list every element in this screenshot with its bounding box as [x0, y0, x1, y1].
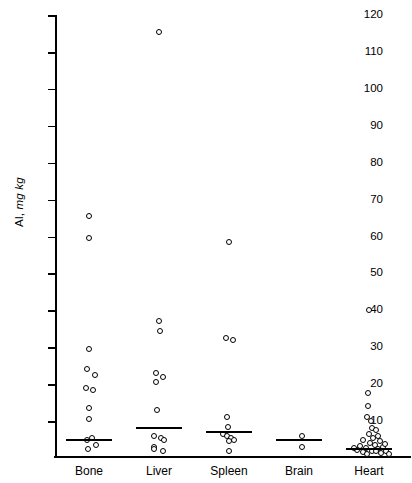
data-point — [226, 448, 232, 454]
y-tick-40 — [48, 310, 55, 312]
y-tick-label-80: 80 — [353, 157, 383, 169]
median-line-brain — [276, 439, 322, 441]
data-point — [85, 446, 91, 452]
data-point — [223, 335, 229, 341]
data-point — [157, 328, 163, 334]
data-point — [86, 405, 92, 411]
data-point — [86, 235, 92, 241]
median-line-bone — [66, 439, 112, 441]
category-label-heart: Heart — [324, 465, 412, 477]
y-tick-60 — [48, 237, 55, 239]
x-axis-line — [54, 456, 411, 458]
y-tick-120 — [48, 15, 55, 17]
y-tick-10 — [48, 421, 55, 423]
data-point — [90, 387, 96, 393]
data-point — [86, 346, 92, 352]
median-line-spleen — [206, 431, 252, 433]
y-tick-20 — [48, 384, 55, 386]
data-point — [84, 366, 90, 372]
y-tick-label-120: 120 — [353, 9, 383, 21]
y-tick-100 — [48, 89, 55, 91]
data-point — [299, 444, 305, 450]
data-point — [156, 29, 162, 35]
data-point — [224, 414, 230, 420]
y-tick-80 — [48, 163, 55, 165]
y-tick-label-70: 70 — [353, 194, 383, 206]
data-point — [230, 337, 236, 343]
y-axis-label-text: Al, — [13, 213, 25, 227]
plot-area: 102030405060708090100110120 — [55, 15, 395, 458]
data-point — [86, 213, 92, 219]
data-point — [160, 448, 166, 454]
data-point — [360, 437, 366, 443]
y-tick-30 — [48, 347, 55, 349]
data-point — [225, 424, 231, 430]
data-point — [386, 451, 392, 457]
y-tick-label-100: 100 — [353, 83, 383, 95]
y-tick-label-60: 60 — [353, 231, 383, 243]
data-point — [83, 385, 89, 391]
y-tick-70 — [48, 200, 55, 202]
data-point — [161, 437, 167, 443]
data-point — [93, 442, 99, 448]
data-point — [382, 441, 388, 447]
y-axis-label: Al, mg kg — [13, 157, 25, 247]
data-point — [151, 433, 157, 439]
data-point — [226, 438, 232, 444]
y-tick-110 — [48, 52, 55, 54]
data-point — [151, 446, 157, 452]
median-line-heart — [346, 448, 392, 450]
y-tick-label-50: 50 — [353, 267, 383, 279]
data-point — [366, 307, 372, 313]
y-tick-label-20: 20 — [353, 378, 383, 390]
median-line-liver — [136, 427, 182, 429]
data-point — [92, 372, 98, 378]
data-point — [156, 318, 162, 324]
data-point — [226, 239, 232, 245]
data-point — [153, 370, 159, 376]
data-point — [368, 418, 374, 424]
data-point — [154, 407, 160, 413]
y-tick-label-90: 90 — [353, 120, 383, 132]
y-tick-90 — [48, 126, 55, 128]
dot-plot-figure: Al, mg kg 102030405060708090100110120 Bo… — [0, 0, 412, 483]
data-point — [365, 403, 371, 409]
y-axis-label-units: mg kg — [13, 177, 25, 209]
data-point — [364, 451, 370, 457]
y-tick-label-110: 110 — [353, 46, 383, 58]
data-point — [365, 390, 371, 396]
y-tick-50 — [48, 273, 55, 275]
data-point — [86, 416, 92, 422]
data-point — [160, 374, 166, 380]
data-point — [153, 379, 159, 385]
y-tick-label-30: 30 — [353, 341, 383, 353]
y-axis-line — [55, 15, 57, 458]
